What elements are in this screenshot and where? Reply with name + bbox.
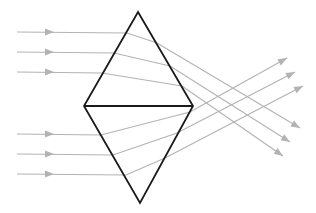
incoming-arrow-icon <box>45 171 54 178</box>
prism-diagram <box>0 0 316 213</box>
outgoing-arrow-icon <box>277 58 287 65</box>
incoming-arrow-icon <box>45 29 54 36</box>
upper-ray-1 <box>17 29 300 129</box>
lower-ray-1 <box>17 58 287 138</box>
outgoing-arrow-icon <box>274 148 283 156</box>
outgoing-arrow-icon <box>281 134 290 142</box>
incoming-arrow-icon <box>45 49 54 56</box>
outgoing-arrow-icon <box>293 86 303 93</box>
incoming-arrow-icon <box>45 131 54 138</box>
ray-path <box>17 72 295 155</box>
outgoing-arrow-icon <box>290 120 300 128</box>
ray-path <box>17 86 303 175</box>
outgoing-arrow-icon <box>285 72 295 79</box>
incoming-arrow-icon <box>45 69 54 76</box>
ray-path <box>17 52 290 142</box>
ray-path <box>17 72 283 156</box>
lower-ray-3 <box>17 86 303 178</box>
incoming-arrow-icon <box>45 151 54 158</box>
lower-ray-2 <box>17 72 295 158</box>
